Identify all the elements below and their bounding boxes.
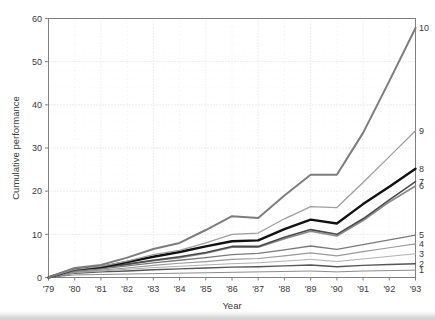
x-tick-label: '84	[174, 284, 186, 294]
series-label-8: 8	[419, 164, 424, 174]
y-tick-label: 20	[32, 186, 42, 196]
y-axis-tick-labels: 0102030405060	[32, 14, 42, 283]
series-labels-group: 12345678910	[419, 23, 429, 275]
x-tick-label: '85	[200, 284, 212, 294]
y-tick-label: 50	[32, 57, 42, 67]
series-label-7: 7	[419, 177, 424, 187]
x-tick-label: '82	[121, 284, 133, 294]
y-tick-label: 10	[32, 230, 42, 240]
series-label-10: 10	[419, 23, 429, 33]
x-tick-label: '86	[226, 284, 238, 294]
series-label-4: 4	[419, 239, 424, 249]
series-group	[49, 28, 416, 278]
chart-figure: 123456789100102030405060'79'80'81'82'83'…	[0, 0, 435, 320]
y-tick-label: 0	[37, 273, 42, 283]
y-axis-title: Cumulative performance	[10, 96, 21, 200]
x-tick-label: '90	[331, 284, 343, 294]
series-label-9: 9	[419, 126, 424, 136]
y-tick-label: 60	[32, 14, 42, 24]
image-bottom-edge	[0, 311, 435, 320]
x-tick-label: '83	[147, 284, 159, 294]
x-tick-label: '80	[69, 284, 81, 294]
x-tick-label: '93	[410, 284, 422, 294]
y-tick-label: 40	[32, 100, 42, 110]
x-axis-tick-labels: '79'80'81'82'83'84'85'86'87'88'89'90'91'…	[43, 284, 422, 294]
x-tick-label: '92	[383, 284, 395, 294]
cumulative-performance-line-chart: 123456789100102030405060'79'80'81'82'83'…	[0, 0, 435, 320]
series-label-3: 3	[419, 249, 424, 259]
x-tick-label: '89	[305, 284, 317, 294]
x-tick-label: '87	[252, 284, 264, 294]
x-axis-title: Year	[222, 300, 241, 311]
y-tick-label: 30	[32, 143, 42, 153]
x-tick-label: '91	[357, 284, 369, 294]
x-tick-label: '88	[279, 284, 291, 294]
x-tick-label: '79	[43, 284, 55, 294]
series-label-2: 2	[419, 259, 424, 269]
x-tick-label: '81	[95, 284, 107, 294]
series-label-5: 5	[419, 230, 424, 240]
grid-group	[49, 19, 416, 278]
